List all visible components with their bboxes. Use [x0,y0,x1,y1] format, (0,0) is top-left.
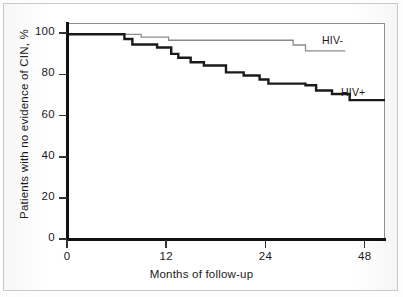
x-tick-label-24: 24 [245,250,285,262]
x-tick-label-48: 48 [345,250,385,262]
y-axis-label: Patients with no evidence of CIN, % [18,14,30,234]
y-tick-label-100: 100 [9,25,55,37]
y-tick-label-0: 0 [9,231,55,243]
x-axis-line [66,238,386,241]
y-tick-label-60: 60 [9,108,55,120]
kaplan-meier-curves [67,24,385,240]
curve-label-hiv-negative: HIV- [322,34,343,46]
figure-container: 020406080100 0122448 Patients with no ev… [0,0,403,297]
y-tick-label-20: 20 [9,190,55,202]
x-tick-label-12: 12 [146,250,186,262]
x-tick-0 [66,240,68,248]
y-tick-40 [59,156,67,158]
x-axis-label: Months of follow-up [0,268,403,280]
y-tick-60 [59,115,67,117]
y-tick-100 [59,32,67,34]
y-tick-20 [59,197,67,199]
plot-area [67,23,385,239]
y-tick-label-80: 80 [9,66,55,78]
y-tick-80 [59,74,67,76]
y-axis-line [66,22,69,241]
curve-label-hiv-positive: HIV+ [341,86,365,98]
x-tick-24 [265,240,267,248]
x-tick-48 [364,240,366,248]
x-tick-label-0: 0 [47,250,87,262]
x-tick-12 [165,240,167,248]
y-tick-label-40: 40 [9,149,55,161]
series-line-hiv-negative [67,34,345,51]
